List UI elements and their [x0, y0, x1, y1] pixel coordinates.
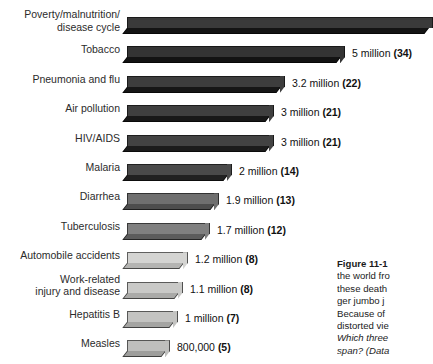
bar-end-cap: [178, 282, 183, 299]
bar: [127, 164, 232, 184]
bar-end-cap: [173, 311, 178, 328]
bar: [127, 223, 210, 243]
bar-top-face: [127, 282, 183, 293]
bar-front-face: [122, 322, 174, 328]
bar-top-face: [127, 135, 274, 146]
bar-value-label: 1.9 million (13): [226, 194, 295, 207]
bar-value-label: 3.2 million (22): [292, 77, 361, 90]
bar: [127, 76, 285, 96]
bar-front-face: [122, 57, 341, 63]
figure-11-1: Poverty/malnutrition/ disease cycleTobac…: [0, 0, 433, 364]
bar-front-face: [122, 351, 166, 357]
bar: [127, 252, 188, 272]
bar-category-label: Work-related injury and disease: [2, 273, 120, 298]
bar-value-label: 3 million (21): [281, 136, 341, 149]
bar-value-label: 1.7 million (12): [217, 224, 286, 237]
bar-category-label: Measles: [2, 337, 120, 350]
bar-front-face: [122, 293, 179, 299]
chart-row: Tobacco5 million (34): [0, 43, 433, 73]
bar-top-face: [127, 340, 170, 351]
bar-end-cap: [214, 193, 219, 210]
bar-top-face: [127, 105, 274, 116]
caption-line: Because of: [337, 308, 433, 320]
bar: [127, 282, 183, 302]
caption-line: these death: [337, 283, 433, 295]
chart-row: Poverty/malnutrition/ disease cycle: [0, 14, 433, 44]
bar-front-face: [122, 175, 228, 181]
bar-category-label: Malaria: [2, 161, 120, 174]
bar-end-cap: [269, 135, 274, 152]
bar-top-face: [127, 17, 433, 28]
bar-end-cap: [205, 223, 210, 240]
bar: [127, 311, 178, 331]
chart-row: Tuberculosis1.7 million (12): [0, 220, 433, 250]
bar-value-label: 800,000 (5): [177, 341, 231, 354]
bar-category-label: Diarrhea: [2, 190, 120, 203]
bar-top-face: [127, 252, 188, 263]
bar-end-cap: [269, 105, 274, 122]
bar-category-label: Hepatitis B: [2, 308, 120, 321]
bar-category-label: Air pollution: [2, 102, 120, 115]
bar-front-face: [122, 263, 184, 269]
bar-front-face: [122, 116, 270, 122]
chart-row: HIV/AIDS3 million (21): [0, 132, 433, 162]
bar-end-cap: [340, 46, 345, 63]
bar-front-face: [122, 204, 215, 210]
chart-row: Diarrhea1.9 million (13): [0, 190, 433, 220]
bar-top-face: [127, 311, 178, 322]
caption-question-line: span? (Data: [337, 345, 433, 357]
bar-category-label: Pneumonia and flu: [2, 73, 120, 86]
bar-end-cap: [183, 252, 188, 269]
bar-value-label: 1 million (7): [185, 312, 239, 325]
bar-value-label: 1.2 million (8): [195, 253, 258, 266]
bar: [127, 17, 433, 37]
bar: [127, 46, 345, 66]
caption-line: the world fro: [337, 270, 433, 282]
chart-row: Malaria2 million (14): [0, 161, 433, 191]
chart-row: Air pollution3 million (21): [0, 102, 433, 132]
bar-value-label: 3 million (21): [281, 106, 341, 119]
bar-category-label: HIV/AIDS: [2, 132, 120, 145]
bar-end-cap: [280, 76, 285, 93]
bar-category-label: Tuberculosis: [2, 220, 120, 233]
bar-top-face: [127, 76, 285, 87]
bar-top-face: [127, 193, 219, 204]
bar-value-label: 5 million (34): [352, 47, 412, 60]
bar: [127, 135, 274, 155]
bar-category-label: Automobile accidents: [2, 249, 120, 262]
bar-front-face: [122, 28, 429, 34]
figure-caption: Figure 11-1 the world fro these death ge…: [337, 258, 433, 357]
bar-end-cap: [165, 340, 170, 357]
bar-top-face: [127, 223, 210, 234]
caption-line: distorted vie: [337, 320, 433, 332]
bar: [127, 193, 219, 213]
caption-line: ger jumbo j: [337, 295, 433, 307]
caption-figure-number: Figure 11-1: [337, 258, 433, 270]
bar-front-face: [122, 146, 270, 152]
bar: [127, 340, 170, 360]
bar: [127, 105, 274, 125]
bar-front-face: [122, 234, 206, 240]
bar-category-label: Tobacco: [2, 43, 120, 56]
bar-front-face: [122, 87, 281, 93]
chart-row: Pneumonia and flu3.2 million (22): [0, 73, 433, 103]
bar-value-label: 2 million (14): [239, 165, 299, 178]
caption-question-line: Which three: [337, 332, 433, 344]
bar-value-label: 1.1 million (8): [190, 283, 253, 296]
bar-end-cap: [227, 164, 232, 181]
bar-top-face: [127, 46, 345, 57]
bar-top-face: [127, 164, 232, 175]
bar-category-label: Poverty/malnutrition/ disease cycle: [2, 8, 120, 33]
